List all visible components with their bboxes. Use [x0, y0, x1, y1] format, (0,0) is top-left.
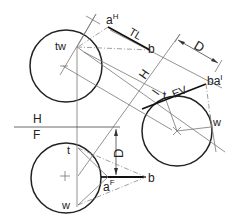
projector-1	[77, 47, 225, 152]
label-b-top: b	[148, 42, 155, 56]
label-ba: baI	[207, 73, 223, 88]
dim-arrow-front-1	[114, 129, 118, 136]
projector-3	[110, 30, 222, 88]
label-tw: tw	[55, 40, 66, 52]
label-H-fold: H	[33, 112, 42, 126]
label-D-top: D	[192, 38, 208, 56]
label-front-w: w	[61, 199, 70, 211]
a-tick	[86, 16, 100, 24]
label-D-front: D	[111, 149, 126, 158]
front-t-to-a	[78, 148, 108, 177]
label-front-a: aF	[103, 178, 115, 194]
dim-arrow-top-1	[178, 40, 185, 45]
label-a-top: aH	[106, 12, 119, 27]
label-H-ref: H	[136, 67, 152, 82]
tw-to-b-dashed	[77, 47, 150, 50]
label-F-fold: F	[33, 128, 40, 142]
label-aux-t: t	[163, 89, 166, 101]
projector-4	[84, 52, 166, 95]
label-aux-w: w	[212, 116, 221, 128]
label-front-b: b	[148, 171, 155, 185]
aux-radial-t	[166, 100, 177, 131]
label-front-t: t	[67, 144, 70, 156]
dim-arrow-top-2	[211, 58, 218, 63]
dim-arrow-front-2	[114, 168, 118, 175]
descriptive-geometry-diagram: tw aH b TL D H I EV baI t w H F D t w aF…	[0, 0, 238, 223]
